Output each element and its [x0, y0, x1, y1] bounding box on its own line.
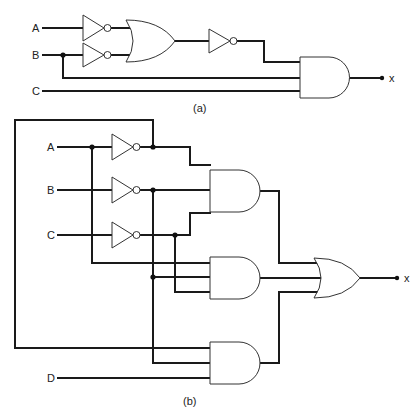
not-gate-b-c [112, 222, 140, 248]
circuit-b [15, 120, 399, 384]
not-gate-a1 [83, 15, 111, 41]
caption-a: (a) [193, 102, 206, 114]
input-label-b: B [47, 184, 54, 196]
or-gate-a [126, 20, 175, 62]
not-gate-b1 [83, 43, 111, 67]
wire-b-and3-out [260, 292, 318, 363]
output-label-x: x [389, 72, 395, 84]
and-gate-a [300, 57, 349, 98]
logic-circuit-diagram: A B C x (a) A B C D x (b) [0, 0, 416, 410]
and-gate-b3 [210, 342, 260, 384]
wire-a-nor-to-and [237, 41, 300, 62]
caption-b: (b) [183, 395, 196, 407]
wire-b-not-a [141, 147, 210, 165]
output-label-x: x [404, 272, 410, 284]
output-terminal [395, 276, 399, 280]
not-gate-after-or [209, 29, 237, 53]
not-gate-b-b [112, 177, 140, 203]
input-label-b: B [32, 49, 39, 61]
input-label-d: D [47, 372, 55, 384]
circuit-a [43, 15, 384, 98]
junction-dot [60, 52, 65, 57]
not-gate-b-a [112, 134, 140, 160]
input-label-c: C [47, 229, 55, 241]
input-label-a: A [47, 141, 54, 153]
wire-b-not-c [141, 213, 210, 235]
input-label-c: C [32, 85, 40, 97]
circuit-drawing [0, 0, 416, 410]
and-gate-b1 [210, 170, 260, 212]
and-gate-b2 [210, 257, 260, 299]
or-gate-b [314, 258, 360, 298]
output-terminal [380, 76, 384, 80]
input-label-a: A [32, 22, 39, 34]
wire-b-and1-out [260, 191, 318, 263]
